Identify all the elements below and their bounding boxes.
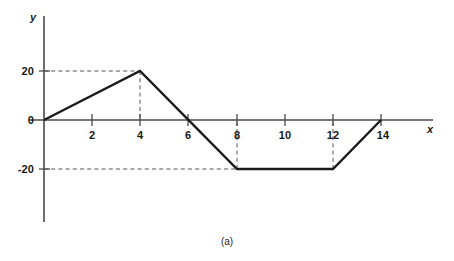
figure-container: 20 0 -20 2 4 6 8 10 12 14 y x (a) <box>0 0 454 261</box>
x-tick-label-4: 4 <box>137 130 143 141</box>
x-tick-label-6: 6 <box>185 130 191 141</box>
x-axis-label: x <box>427 124 433 135</box>
x-tick-label-8: 8 <box>234 130 240 141</box>
x-tick-label-12: 12 <box>327 130 339 141</box>
y-tick-label-0: 0 <box>22 115 34 126</box>
figure-caption: (a) <box>0 236 454 247</box>
y-tick-label-neg20: -20 <box>6 164 34 175</box>
axes <box>29 16 433 222</box>
x-tick-label-10: 10 <box>279 130 291 141</box>
x-tick-label-2: 2 <box>89 130 95 141</box>
y-axis-label: y <box>30 12 36 23</box>
x-tick-label-14: 14 <box>377 130 389 141</box>
y-tick-label-20: 20 <box>10 66 34 77</box>
